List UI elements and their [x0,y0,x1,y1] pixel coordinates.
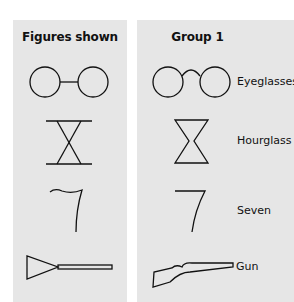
label-gun: Gun [236,260,258,273]
label-eyeglasses: Eyeglasses [237,75,294,88]
group1-figures [0,0,294,302]
label-seven: Seven [237,204,271,217]
label-hourglass: Hourglass [237,134,292,147]
